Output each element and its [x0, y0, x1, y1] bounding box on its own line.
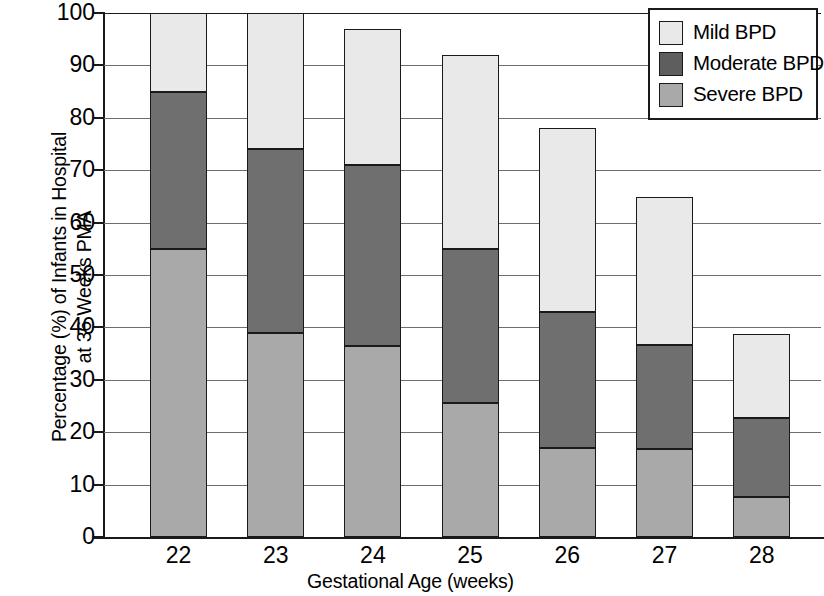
legend-label-mild: Mild BPD: [693, 22, 776, 43]
y-axis-tick: [94, 379, 104, 381]
bar-segment-severe: [539, 448, 596, 537]
x-axis-tick-label: 27: [620, 544, 710, 567]
y-axis-tick: [94, 169, 104, 171]
bar-segment-mild: [442, 55, 499, 249]
x-axis-tick-label: 26: [522, 544, 612, 567]
bar-25: [442, 55, 499, 537]
y-axis-tick: [94, 117, 104, 119]
y-axis-tick-label: 70: [35, 158, 95, 181]
bar-segment-mild: [636, 197, 693, 345]
bar-segment-mild: [344, 29, 401, 165]
legend-label-moderate: Moderate BPD: [693, 53, 824, 74]
y-axis-tick-label: 60: [35, 211, 95, 234]
bar-23: [247, 13, 304, 537]
bar-24: [344, 29, 401, 537]
y-axis-tick-label: 100: [35, 1, 95, 24]
bar-segment-moderate: [150, 92, 207, 249]
bar-segment-moderate: [539, 312, 596, 448]
bar-segment-severe: [442, 403, 499, 537]
y-axis-tick: [94, 536, 104, 538]
legend-item-mild: Mild BPD: [650, 17, 816, 48]
bar-26: [539, 128, 596, 537]
bar-segment-severe: [247, 333, 304, 537]
y-axis-tick-label: 10: [35, 473, 95, 496]
bar-segment-moderate: [442, 249, 499, 404]
y-axis-tick-label: 50: [35, 263, 95, 286]
y-axis-tick: [94, 274, 104, 276]
bar-segment-severe: [733, 497, 790, 537]
y-axis-tick: [94, 484, 104, 486]
legend-item-severe: Severe BPD: [650, 79, 816, 110]
y-axis-tick-label: 30: [35, 368, 95, 391]
bar-27: [636, 197, 693, 537]
y-axis-tick: [94, 431, 104, 433]
y-axis-tick-label: 20: [35, 420, 95, 443]
legend-item-moderate: Moderate BPD: [650, 48, 816, 79]
bar-segment-mild: [150, 13, 207, 92]
x-axis-tick-label: 23: [231, 544, 321, 567]
chart-legend: Mild BPDModerate BPDSevere BPD: [648, 8, 818, 120]
y-axis-tick: [94, 326, 104, 328]
x-axis-tick-label: 28: [717, 544, 807, 567]
x-axis-tick-label: 24: [328, 544, 418, 567]
bar-segment-severe: [150, 249, 207, 537]
x-axis-title: Gestational Age (weeks): [0, 570, 821, 593]
bar-segment-moderate: [247, 149, 304, 332]
y-axis-tick-label: 0: [35, 525, 95, 548]
bar-segment-moderate: [733, 418, 790, 497]
x-axis-tick-label: 25: [425, 544, 515, 567]
x-axis-line: [94, 537, 824, 539]
bar-22: [150, 13, 207, 537]
y-axis-tick-label: 80: [35, 106, 95, 129]
bar-segment-moderate: [636, 345, 693, 449]
bar-segment-severe: [344, 346, 401, 537]
y-axis-tick: [94, 64, 104, 66]
legend-swatch-moderate: [659, 52, 683, 76]
y-axis-tick: [94, 222, 104, 224]
legend-swatch-mild: [659, 21, 683, 45]
legend-swatch-severe: [659, 83, 683, 107]
y-axis-tick-label: 40: [35, 315, 95, 338]
bar-segment-severe: [636, 449, 693, 537]
bar-segment-mild: [247, 13, 304, 149]
bar-segment-moderate: [344, 165, 401, 346]
bar-segment-mild: [539, 128, 596, 311]
bar-segment-mild: [733, 334, 790, 418]
x-axis-tick-label: 22: [134, 544, 224, 567]
bar-28: [733, 334, 790, 537]
legend-label-severe: Severe BPD: [693, 84, 803, 105]
y-axis-tick: [94, 12, 104, 14]
y-axis-tick-label: 90: [35, 53, 95, 76]
